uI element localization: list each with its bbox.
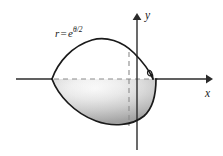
equation-exponent: θ/2 xyxy=(73,25,83,34)
curve-upper-branch xyxy=(52,39,153,79)
x-axis-label: x xyxy=(205,88,210,100)
figure-canvas xyxy=(0,0,223,156)
polar-curve-figure: r=eθ/2 y x xyxy=(0,0,223,156)
curve-equation-label: r=eθ/2 xyxy=(55,26,83,39)
equation-operator: = xyxy=(59,27,67,39)
y-axis-label: y xyxy=(145,10,150,22)
